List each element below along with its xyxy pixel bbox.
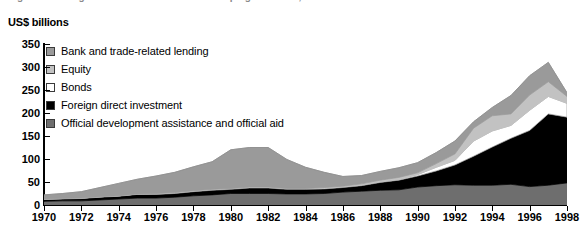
x-tick-label-1982: 1982 [248, 212, 288, 223]
y-tick-mark-200 [44, 113, 50, 114]
legend-item-fdi[interactable]: Foreign direct investment [46, 98, 284, 113]
x-tick-label-1976: 1976 [136, 212, 176, 223]
legend-item-bonds[interactable]: Bonds [46, 80, 284, 95]
x-tick-label-1990: 1990 [398, 212, 438, 223]
y-tick-mark-250 [44, 90, 50, 91]
x-tick-label-1992: 1992 [435, 212, 475, 223]
y-tick-label-150: 150 [2, 131, 40, 142]
y-tick-label-100: 100 [2, 154, 40, 165]
y-tick-label-200: 200 [2, 108, 40, 119]
legend-label-equity: Equity [61, 64, 91, 75]
y-tick-label-50: 50 [2, 177, 40, 188]
legend-swatch-fdi-icon [46, 101, 55, 110]
legend-swatch-bank-icon [46, 47, 55, 56]
x-tick-label-1974: 1974 [99, 212, 139, 223]
legend-item-equity[interactable]: Equity [46, 62, 284, 77]
y-tick-label-300: 300 [2, 62, 40, 73]
y-tick-label-250: 250 [2, 85, 40, 96]
y-tick-mark-300 [44, 67, 50, 68]
y-tick-label-0: 0 [2, 200, 40, 211]
x-tick-label-1994: 1994 [472, 212, 512, 223]
legend-label-fdi: Foreign direct investment [61, 100, 182, 111]
legend-label-bank: Bank and trade-related lending [61, 46, 208, 57]
y-tick-mark-150 [44, 136, 50, 137]
chart-legend: Bank and trade-related lendingEquityBond… [46, 44, 284, 131]
legend-item-oda[interactable]: Official development assistance and offi… [46, 116, 284, 131]
y-tick-mark-50 [44, 182, 50, 183]
x-tick-label-1980: 1980 [211, 212, 251, 223]
cropped-figure-title: Figure: Net long-term resource flows to … [8, 0, 568, 3]
x-tick-label-1984: 1984 [286, 212, 326, 223]
x-tick-label-1998: 1998 [547, 212, 587, 223]
legend-label-bonds: Bonds [61, 82, 92, 93]
x-tick-label-1978: 1978 [173, 212, 213, 223]
y-tick-mark-350 [44, 44, 50, 45]
legend-swatch-oda-icon [46, 119, 55, 128]
chart-figure: Figure: Net long-term resource flows to … [0, 0, 587, 236]
y-tick-label-350: 350 [2, 39, 40, 50]
y-axis-labels: 050100150200250300350 [0, 0, 40, 236]
y-tick-mark-0 [44, 205, 50, 206]
x-tick-label-1988: 1988 [360, 212, 400, 223]
x-tick-label-1970: 1970 [24, 212, 64, 223]
x-tick-label-1986: 1986 [323, 212, 363, 223]
y-tick-mark-100 [44, 159, 50, 160]
legend-label-oda: Official development assistance and offi… [61, 118, 284, 129]
x-tick-label-1996: 1996 [510, 212, 550, 223]
x-tick-label-1972: 1972 [61, 212, 101, 223]
legend-item-bank[interactable]: Bank and trade-related lending [46, 44, 284, 59]
